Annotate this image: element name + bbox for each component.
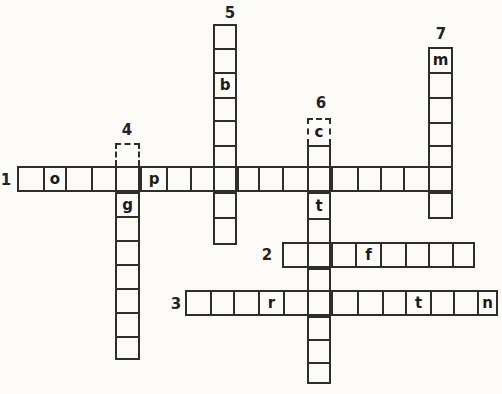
crossword-cell-6-down-10[interactable]: [307, 339, 331, 362]
crossword-page: op1f2rtn3g4b5ct6m7: [0, 0, 502, 394]
cell-letter: t: [415, 296, 422, 311]
crossword-cell-1-across-2[interactable]: o: [43, 166, 65, 192]
crossword-cell-3-across-3[interactable]: [233, 290, 258, 316]
crossword-cell-5-down-4[interactable]: [213, 97, 237, 120]
crossword-cell-3-across-10[interactable]: t: [405, 290, 430, 316]
cell-letter: o: [50, 172, 60, 187]
cell-letter: t: [315, 199, 322, 214]
crossword-cell-7-down-2[interactable]: [428, 72, 453, 97]
crossword-cell-6-down-7[interactable]: [307, 268, 331, 290]
crossword-cell-1-across-1[interactable]: [17, 166, 43, 192]
crossword-cell-2-across-7[interactable]: [428, 242, 452, 268]
cell-letter: n: [482, 296, 493, 311]
crossword-cell-5-down-3[interactable]: b: [213, 72, 237, 97]
crossword-cell-6-down-11[interactable]: [307, 362, 331, 384]
crossword-cell-1-across-4[interactable]: [91, 166, 115, 192]
crossword-cell-3-across-11[interactable]: [430, 290, 453, 316]
crossword-cell-4-down-7[interactable]: [115, 288, 140, 312]
crossword-cell-1-across-10[interactable]: [237, 166, 258, 192]
crossword-cell-3-across-5[interactable]: [283, 290, 307, 316]
crossword-cell-4-down-6[interactable]: [115, 264, 140, 288]
crossword-cell-6-down-3[interactable]: [307, 166, 331, 192]
crossword-cell-3-across-1[interactable]: [185, 290, 210, 316]
crossword-cell-4-down-2[interactable]: [115, 166, 140, 192]
cell-letter: r: [268, 296, 275, 311]
crossword-cell-6-down-1[interactable]: c: [307, 118, 331, 145]
crossword-cell-7-down-7[interactable]: [428, 192, 453, 219]
crossword-cell-3-across-12[interactable]: [453, 290, 477, 316]
crossword-cell-1-across-7[interactable]: [166, 166, 190, 192]
crossword-cell-6-down-4[interactable]: t: [307, 192, 331, 218]
crossword-cell-5-down-6[interactable]: [213, 145, 237, 166]
clue-number-2: 2: [262, 248, 272, 263]
crossword-cell-2-across-3[interactable]: [331, 242, 355, 268]
cell-letter: p: [149, 172, 160, 187]
crossword-cell-3-across-4[interactable]: r: [258, 290, 283, 316]
crossword-cell-4-down-4[interactable]: [115, 216, 140, 240]
crossword-cell-7-down-1[interactable]: m: [428, 47, 453, 72]
crossword-cell-1-across-17[interactable]: [403, 166, 428, 192]
cell-letter: b: [220, 78, 231, 93]
crossword-cell-7-down-5[interactable]: [428, 145, 453, 166]
crossword-cell-4-down-3[interactable]: g: [115, 192, 140, 216]
crossword-cell-3-across-9[interactable]: [382, 290, 405, 316]
clue-number-3: 3: [171, 297, 181, 312]
crossword-cell-1-across-6[interactable]: p: [140, 166, 166, 192]
crossword-cell-5-down-8[interactable]: [213, 192, 237, 217]
crossword-cell-1-across-8[interactable]: [190, 166, 213, 192]
clue-number-5: 5: [225, 6, 235, 21]
cell-letter: m: [433, 53, 449, 68]
crossword-cell-2-across-5[interactable]: [380, 242, 405, 268]
crossword-cell-1-across-3[interactable]: [65, 166, 91, 192]
crossword-cell-6-down-6[interactable]: [307, 242, 331, 268]
crossword-cell-1-across-14[interactable]: [331, 166, 357, 192]
crossword-cell-5-down-9[interactable]: [213, 217, 237, 245]
crossword-cell-6-down-2[interactable]: [307, 145, 331, 166]
crossword-cell-5-down-1[interactable]: [213, 24, 237, 48]
crossword-cell-7-down-4[interactable]: [428, 122, 453, 145]
crossword-cell-5-down-7[interactable]: [213, 166, 237, 192]
crossword-cell-1-across-12[interactable]: [282, 166, 307, 192]
crossword-cell-2-across-8[interactable]: [452, 242, 475, 268]
crossword-cell-3-across-2[interactable]: [210, 290, 233, 316]
crossword-cell-2-across-6[interactable]: [405, 242, 428, 268]
crossword-cell-5-down-2[interactable]: [213, 48, 237, 72]
crossword-cell-4-down-1[interactable]: [115, 143, 140, 166]
crossword-cell-6-down-8[interactable]: [307, 290, 331, 316]
crossword-cell-5-down-5[interactable]: [213, 120, 237, 145]
cell-letter: g: [122, 198, 133, 213]
crossword-cell-1-across-16[interactable]: [380, 166, 403, 192]
clue-number-1: 1: [1, 173, 11, 188]
crossword-cell-4-down-5[interactable]: [115, 240, 140, 264]
crossword-cell-4-down-8[interactable]: [115, 312, 140, 336]
crossword-cell-1-across-11[interactable]: [258, 166, 282, 192]
crossword-cell-7-down-3[interactable]: [428, 97, 453, 122]
crossword-cell-2-across-1[interactable]: [282, 242, 307, 268]
cell-letter: f: [365, 248, 372, 263]
clue-number-7: 7: [436, 27, 446, 42]
crossword-cell-7-down-6[interactable]: [428, 166, 453, 192]
clue-number-6: 6: [316, 96, 326, 111]
crossword-cell-1-across-15[interactable]: [357, 166, 380, 192]
crossword-cell-4-down-9[interactable]: [115, 336, 140, 360]
crossword-cell-2-across-4[interactable]: f: [355, 242, 380, 268]
crossword-cell-6-down-5[interactable]: [307, 218, 331, 242]
cell-letter: c: [315, 125, 324, 140]
crossword-cell-3-across-13[interactable]: n: [477, 290, 498, 316]
crossword-cell-3-across-7[interactable]: [331, 290, 357, 316]
clue-number-4: 4: [122, 123, 132, 138]
crossword-cell-3-across-8[interactable]: [357, 290, 382, 316]
crossword-cell-6-down-9[interactable]: [307, 316, 331, 339]
